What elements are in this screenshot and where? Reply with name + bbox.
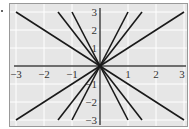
y-tick-label: −1 (85, 78, 97, 90)
chart: −3−2−1123321−1−2−3 (0, 0, 189, 129)
bullet-marker (1, 10, 3, 12)
x-tick-label: −1 (66, 68, 78, 80)
y-tick-label: 1 (92, 42, 98, 54)
x-tick-label: 3 (179, 68, 185, 80)
y-tick-label: −2 (85, 96, 97, 108)
y-tick-label: −3 (85, 114, 97, 126)
x-tick-label: −2 (38, 68, 50, 80)
x-tick-label: 1 (125, 68, 131, 80)
y-tick-label: 2 (92, 24, 98, 36)
x-tick-label: −3 (10, 68, 22, 80)
y-tick-label: 3 (92, 6, 98, 18)
x-tick-label: 2 (153, 68, 159, 80)
